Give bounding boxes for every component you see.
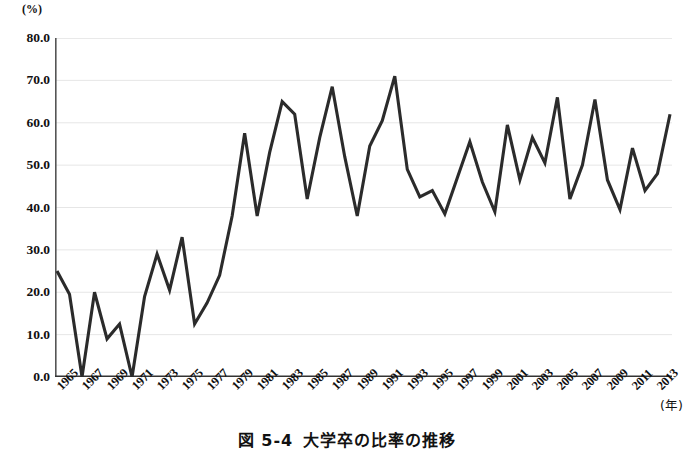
x-tick-label-1983: 1983 <box>279 366 307 394</box>
x-tick-label-1985: 1985 <box>304 366 332 394</box>
x-tick-label-1977: 1977 <box>204 366 232 394</box>
figure-caption-title: 大学卒の比率の推移 <box>303 431 456 450</box>
x-axis-unit-label: (年) <box>660 395 683 414</box>
x-tick-label-1987: 1987 <box>329 366 357 394</box>
x-tick-label-1967: 1967 <box>79 366 107 394</box>
x-tick-label-1997: 1997 <box>454 366 482 394</box>
x-tick-label-1975: 1975 <box>179 366 207 394</box>
x-tick-label-2005: 2005 <box>554 366 582 394</box>
x-tick-label-2009: 2009 <box>604 366 632 394</box>
x-tick-label-1971: 1971 <box>129 366 157 394</box>
x-tick-label-1973: 1973 <box>154 366 182 394</box>
x-tick-label-1979: 1979 <box>229 366 257 394</box>
x-tick-label-1989: 1989 <box>354 366 382 394</box>
x-tick-label-1991: 1991 <box>379 366 407 394</box>
x-tick-label-1969: 1969 <box>104 366 132 394</box>
figure-caption-number: 図 5-4 <box>238 431 293 450</box>
figure-caption: 図 5-4大学卒の比率の推移 <box>0 427 694 451</box>
x-tick-label-1995: 1995 <box>429 366 457 394</box>
x-tick-label-2003: 2003 <box>529 366 557 394</box>
x-tick-label-2007: 2007 <box>579 366 607 394</box>
x-tick-label-2011: 2011 <box>629 366 656 393</box>
x-tick-label-2001: 2001 <box>504 366 532 394</box>
x-tick-label-1999: 1999 <box>479 366 507 394</box>
x-tick-label-1981: 1981 <box>254 366 282 394</box>
x-tick-label-2013: 2013 <box>654 366 682 394</box>
x-tick-label-1993: 1993 <box>404 366 432 394</box>
x-tick-label-1965: 1965 <box>54 366 82 394</box>
